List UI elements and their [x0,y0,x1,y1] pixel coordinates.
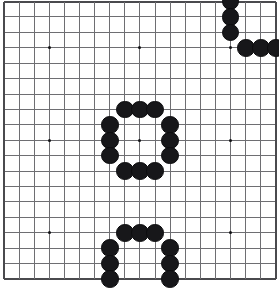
grid-line-vertical [94,2,95,280]
black-stone[interactable] [146,162,164,180]
black-stone[interactable] [101,116,119,134]
below-board-margin [0,288,279,296]
grid-line-vertical [185,2,186,280]
star-point [48,46,51,49]
grid-line-vertical [215,2,216,280]
black-stone[interactable] [146,101,164,119]
grid-line-vertical [34,2,35,280]
grid-line-vertical [200,2,201,280]
black-stone[interactable] [146,224,164,242]
black-stone[interactable] [101,270,119,288]
black-stone[interactable] [161,116,179,134]
black-stone[interactable] [222,24,240,42]
star-point [48,139,51,142]
black-stone[interactable] [267,39,279,57]
star-point [229,139,232,142]
black-stone[interactable] [161,270,179,288]
star-point [229,231,232,234]
go-board-screenshot [0,0,279,296]
grid-line-vertical [79,2,80,280]
grid-line-vertical [64,2,65,280]
board-border-vertical [3,2,5,280]
black-stone[interactable] [101,147,119,165]
star-point [229,46,232,49]
goban[interactable] [0,0,279,296]
grid-line-vertical [19,2,20,280]
black-stone[interactable] [161,147,179,165]
star-point [48,231,51,234]
